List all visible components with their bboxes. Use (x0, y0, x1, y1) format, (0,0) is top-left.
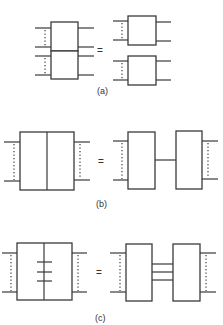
panel-a: = (a) (35, 16, 171, 96)
panel-a-equals-sign: = (97, 45, 103, 56)
panel-b-left-block (4, 132, 90, 190)
panel-b-label: (b) (96, 199, 107, 209)
panel-a-right-blocks (113, 16, 171, 85)
panel-b-equals-sign: = (98, 156, 104, 167)
panel-a-left-stacked-block (35, 22, 94, 79)
circuit-equivalence-diagram: = (a) = (0, 0, 223, 325)
panel-c-left-block (2, 243, 87, 300)
panel-c-equals-sign: = (96, 267, 102, 278)
panel-c-right-blocks (110, 244, 216, 301)
panel-a-label: (a) (97, 86, 108, 96)
panel-b-right-blocks (113, 131, 218, 189)
panel-b: = (b) (4, 131, 218, 209)
panel-c: = (c) (2, 243, 216, 323)
panel-c-label: (c) (95, 313, 106, 323)
